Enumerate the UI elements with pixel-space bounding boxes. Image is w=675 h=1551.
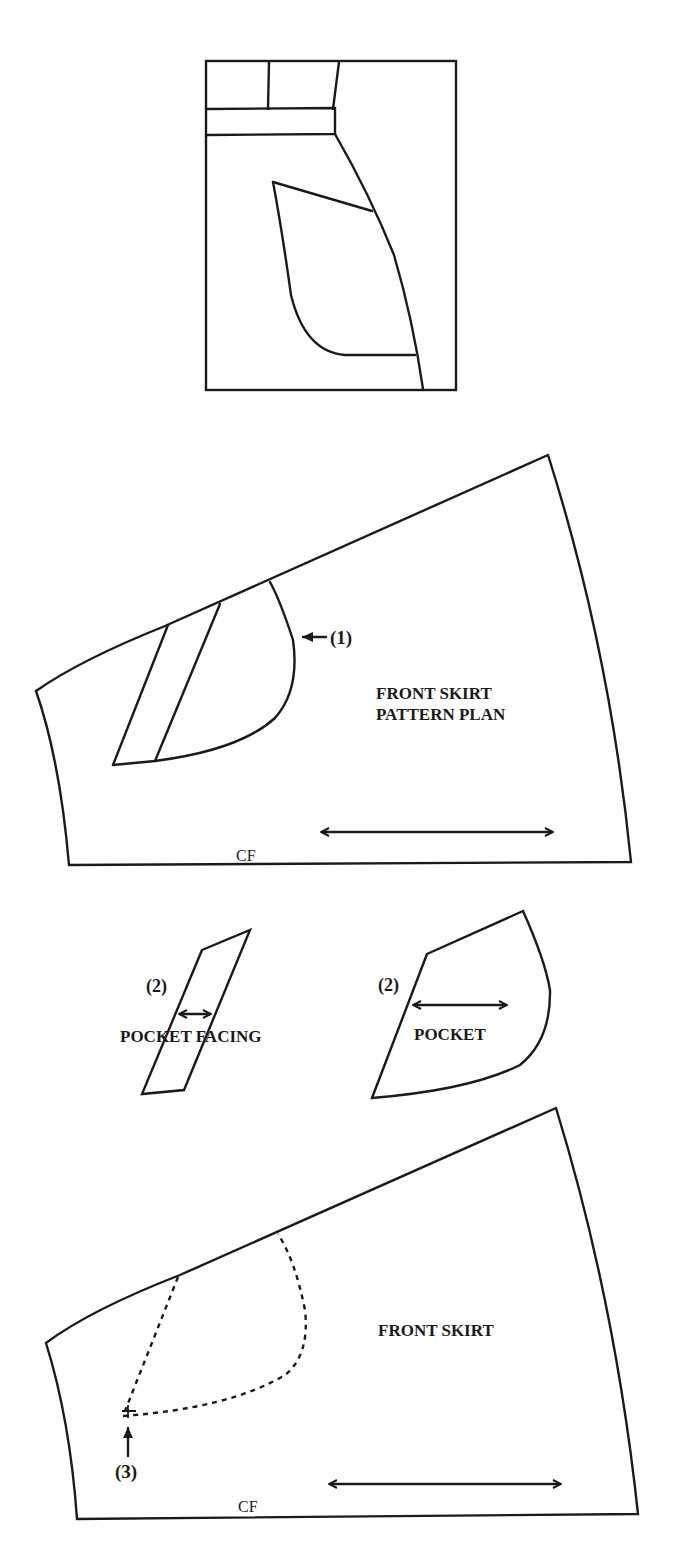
facing-label: POCKET FACING: [120, 1027, 262, 1046]
plan-cf-label: CF: [236, 847, 256, 864]
skirt-pocket-facing-line: [123, 1277, 178, 1416]
sketch-side-seam: [335, 134, 423, 389]
facing-callout: (2): [146, 976, 167, 997]
plan-title-line2: PATTERN PLAN: [376, 705, 506, 724]
plan-facing-edge-right: [155, 604, 220, 761]
sketch-frame: [206, 61, 456, 390]
pattern-diagram: (1) FRONT SKIRT PATTERN PLAN CF (2) POCK…: [0, 0, 675, 1551]
sketch-pocket-top: [273, 182, 372, 211]
pocket-label: POCKET: [414, 1025, 486, 1044]
callout-1-label: (1): [330, 627, 352, 649]
pocket-piece: (2) POCKET: [372, 911, 550, 1098]
skirt-cf-label: CF: [238, 1498, 258, 1515]
sketch-waistband: [207, 108, 335, 135]
garment-sketch: [206, 61, 456, 390]
plan-title-line1: FRONT SKIRT: [376, 684, 492, 703]
sketch-pocket-curve: [273, 182, 415, 355]
front-skirt-pattern-plan: (1) FRONT SKIRT PATTERN PLAN CF: [36, 455, 631, 865]
callout-3-label: (3): [115, 1461, 137, 1483]
sketch-side-seam-top: [333, 62, 339, 109]
facing-outline: [142, 930, 250, 1094]
pocket-callout: (2): [378, 975, 399, 996]
front-skirt-final: (3) FRONT SKIRT CF: [46, 1108, 638, 1519]
skirt-outline: [46, 1108, 638, 1519]
plan-outline: [36, 455, 631, 865]
pocket-facing-piece: (2) POCKET FACING: [120, 930, 262, 1094]
plan-facing-edge-left: [113, 625, 168, 765]
skirt-title: FRONT SKIRT: [378, 1321, 494, 1340]
skirt-pocket-curve: [123, 1234, 306, 1416]
sketch-belt-loop: [268, 62, 269, 109]
